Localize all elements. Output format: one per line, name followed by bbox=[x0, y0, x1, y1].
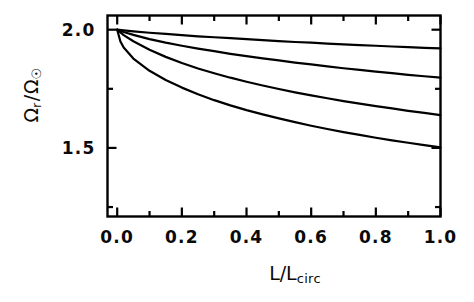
y-tick-label: 1.5 bbox=[0, 138, 96, 158]
x-tick-label: 1.0 bbox=[424, 227, 458, 247]
y-axis-denominator-subscript: ☉ bbox=[29, 67, 44, 79]
y-axis-numerator-symbol: Ω bbox=[20, 108, 42, 123]
figure-canvas: 0.00.20.40.60.81.0 2.01.5 L/Lcirc Ωr/Ω☉ bbox=[0, 0, 474, 302]
x-axis-title-subscript: circ bbox=[297, 271, 321, 286]
x-tick-label: 0.2 bbox=[165, 227, 199, 247]
x-axis-title-main: L/L bbox=[269, 262, 297, 284]
y-axis-denominator-symbol: Ω bbox=[20, 79, 42, 94]
x-tick-label: 0.4 bbox=[230, 227, 264, 247]
y-axis-title: Ωr/Ω☉ bbox=[20, 67, 44, 122]
x-axis-title: L/Lcirc bbox=[269, 262, 321, 286]
x-tick-label: 0.0 bbox=[100, 227, 134, 247]
x-tick-label: 0.6 bbox=[294, 227, 328, 247]
y-axis-divider: / bbox=[20, 94, 42, 102]
y-axis-numerator-subscript: r bbox=[29, 102, 44, 108]
y-tick-label: 2.0 bbox=[0, 20, 96, 40]
x-tick-label: 0.8 bbox=[359, 227, 393, 247]
